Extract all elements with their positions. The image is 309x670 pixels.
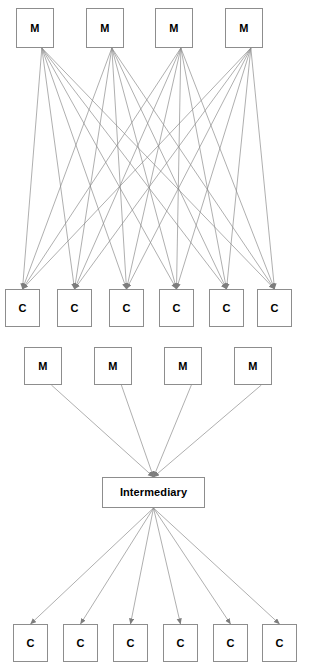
mesh-edge-m1-c3	[112, 48, 177, 289]
consumer-node-bottom-3: C	[163, 624, 198, 662]
consumer-node-top-3: C	[159, 289, 194, 327]
hub-inbound-edge-2	[154, 385, 192, 477]
producer-node-bottom-3: M	[234, 347, 272, 385]
mesh-edge-m2-c2	[127, 48, 181, 289]
hub-inbound-edge-0	[51, 385, 153, 477]
mesh-edge-m3-c2	[127, 48, 251, 289]
consumer-node-bottom-4: C	[213, 624, 248, 662]
mesh-edge-m0-c0	[23, 48, 42, 289]
producer-node-top-0: M	[16, 8, 54, 48]
hub-outbound-edge-0	[31, 508, 154, 624]
producer-node-top-1: M	[86, 8, 124, 48]
producer-node-bottom-0: M	[24, 347, 62, 385]
intermediary-node: Intermediary	[102, 477, 205, 508]
producer-node-top-2: M	[155, 8, 193, 48]
consumer-node-top-2: C	[109, 289, 144, 327]
mesh-edge-m2-c3	[177, 48, 181, 289]
mesh-edge-m3-c1	[75, 48, 251, 289]
hub-outbound-edge-2	[131, 508, 154, 624]
consumer-node-top-5: C	[257, 289, 292, 327]
mesh-edge-m2-c5	[181, 48, 275, 289]
topology-diagram: MMMMCCCCCCMMMMIntermediaryCCCCCC	[0, 0, 309, 670]
consumer-node-top-4: C	[209, 289, 244, 327]
mesh-edge-m3-c0	[23, 48, 251, 289]
mesh-edge-m3-c5	[251, 48, 275, 289]
producer-node-bottom-1: M	[94, 347, 132, 385]
hub-outbound-edge-4	[154, 508, 231, 624]
hub-outbound-edge-5	[154, 508, 280, 624]
connector-lines-layer	[0, 0, 309, 670]
hub-inbound-edge-1	[121, 385, 153, 477]
mesh-edge-m2-c0	[23, 48, 181, 289]
hub-outbound-edge-3	[154, 508, 181, 624]
producer-node-top-3: M	[225, 8, 263, 48]
mesh-edge-m1-c4	[112, 48, 227, 289]
consumer-node-bottom-0: C	[13, 624, 48, 662]
mesh-edge-m2-c1	[75, 48, 181, 289]
consumer-node-top-0: C	[5, 289, 40, 327]
mesh-edge-m1-c0	[23, 48, 112, 289]
consumer-node-bottom-1: C	[63, 624, 98, 662]
hub-inbound-edge-3	[154, 385, 262, 477]
hub-outbound-edge-1	[81, 508, 154, 624]
mesh-edge-m3-c4	[227, 48, 251, 289]
consumer-node-bottom-2: C	[113, 624, 148, 662]
mesh-edges	[23, 48, 275, 289]
consumer-node-top-1: C	[57, 289, 92, 327]
producer-node-bottom-2: M	[164, 347, 202, 385]
consumer-node-bottom-5: C	[262, 624, 297, 662]
mesh-edge-m0-c3	[42, 48, 177, 289]
mesh-edge-m1-c1	[75, 48, 112, 289]
